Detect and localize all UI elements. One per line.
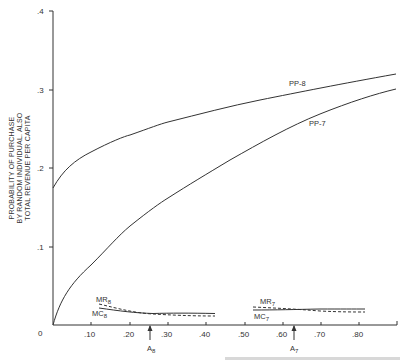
x-tick-label: .50 bbox=[238, 330, 250, 339]
pp8-curve bbox=[53, 74, 396, 188]
origin-label: 0 bbox=[38, 329, 43, 338]
y-axis-label-line: BY RANDOM INDIVIDUAL. ALSO bbox=[16, 112, 23, 223]
y-tick-label: .3 bbox=[37, 86, 44, 95]
pp7-curve bbox=[53, 89, 396, 325]
a7-label-sub: 7 bbox=[295, 348, 299, 354]
mr7-label: MR7 bbox=[260, 297, 276, 307]
x-tick-label: .60 bbox=[276, 330, 288, 339]
a7-label: A7 bbox=[290, 344, 299, 354]
chart: .4 .3 .2 .1 0 .10 .20 .30 .40 .50 .60 .7… bbox=[0, 0, 409, 360]
x-tick-label: .30 bbox=[161, 330, 173, 339]
a8-label: A8 bbox=[147, 344, 156, 354]
mr8-label-main: MR bbox=[96, 295, 108, 304]
a8-arrow-icon bbox=[148, 325, 153, 331]
mc8-label-sub: 8 bbox=[104, 313, 108, 319]
y-tick-label: .4 bbox=[37, 7, 44, 16]
x-tick-label: .80 bbox=[352, 330, 364, 339]
a8-annotation: A8 bbox=[147, 325, 156, 354]
mc7-label-sub: 7 bbox=[266, 316, 270, 322]
x-tick-label: .10 bbox=[84, 330, 96, 339]
mc8-curve bbox=[99, 308, 215, 314]
mc8-label-main: MC bbox=[92, 309, 104, 318]
mc8-label: MC8 bbox=[92, 309, 108, 319]
a7-arrow-icon bbox=[292, 325, 297, 331]
mr7-label-main: MR bbox=[260, 297, 272, 306]
x-tick-label: .70 bbox=[314, 330, 326, 339]
y-axis-label-line: PROBABILITY OF PURCHASE bbox=[8, 116, 15, 219]
mr7-label-sub: 7 bbox=[272, 301, 276, 307]
y-axis-label-line: TOTAL REVENUE PER CAPITA bbox=[24, 115, 31, 220]
mc7-label-main: MC bbox=[254, 312, 266, 321]
a7-annotation: A7 bbox=[290, 325, 299, 354]
x-tick-label: .40 bbox=[199, 330, 211, 339]
y-tick-label: .2 bbox=[37, 164, 44, 173]
mr8-label-sub: 8 bbox=[108, 299, 112, 305]
y-tick-label: .1 bbox=[37, 243, 44, 252]
mc7-label: MC7 bbox=[254, 312, 270, 322]
mr8-label: MR8 bbox=[96, 295, 112, 305]
pp7-label: PP-7 bbox=[309, 119, 326, 128]
x-tick-label: .20 bbox=[123, 330, 135, 339]
pp8-label: PP-8 bbox=[289, 79, 306, 88]
a8-label-sub: 8 bbox=[152, 348, 156, 354]
axes: .4 .3 .2 .1 0 .10 .20 .30 .40 .50 .60 .7… bbox=[37, 7, 397, 339]
y-axis-label: PROBABILITY OF PURCHASE BY RANDOM INDIVI… bbox=[8, 112, 31, 223]
